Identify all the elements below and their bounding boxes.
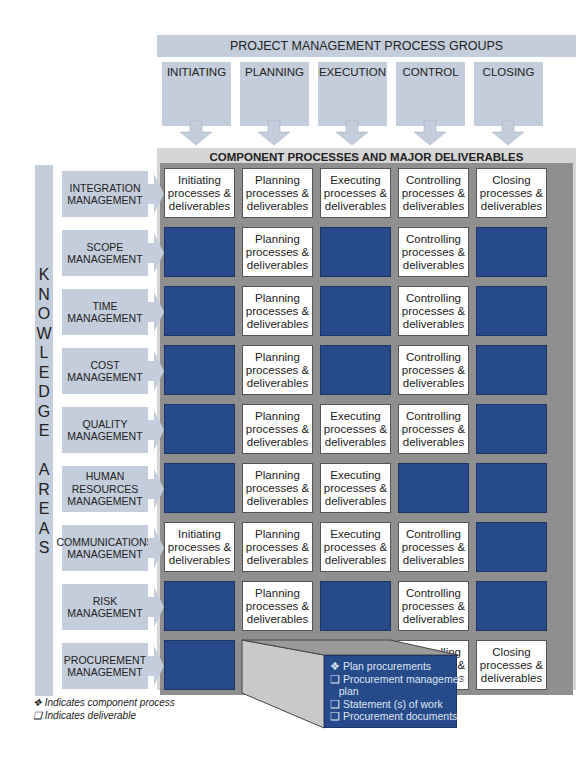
process-cell: Planningprocesses &deliverables xyxy=(242,404,313,454)
process-cell: Planningprocesses &deliverables xyxy=(242,168,313,218)
process-cell: Planningprocesses &deliverables xyxy=(242,227,313,277)
process-cell: Planningprocesses &deliverables xyxy=(242,522,313,572)
legend-component-process: ❖ Indicates component process xyxy=(33,697,175,708)
empty-cell xyxy=(476,227,547,277)
process-cell: Planningprocesses &deliverables xyxy=(242,345,313,395)
right-arrow-icon xyxy=(148,174,164,214)
legend-deliverable: ❑ Indicates deliverable xyxy=(33,710,136,721)
right-arrow-icon xyxy=(148,233,164,273)
empty-cell xyxy=(476,286,547,336)
empty-cell xyxy=(164,227,235,277)
process-cell: Planningprocesses &deliverables xyxy=(242,286,313,336)
right-arrow-icon xyxy=(148,351,164,391)
process-cell: Executingprocesses &deliverables xyxy=(320,463,391,513)
callout-item: ❑ Procurement documents xyxy=(330,710,452,723)
knowledge-area-risk: RISKMANAGEMENT xyxy=(62,584,148,630)
empty-cell xyxy=(164,404,235,454)
empty-cell xyxy=(476,345,547,395)
process-cell: Closingprocesses &deliverables xyxy=(476,168,547,218)
process-cell: Planningprocesses &deliverables xyxy=(242,581,313,631)
knowledge-area-scope: SCOPEMANAGEMENT xyxy=(62,230,148,276)
right-arrow-icon xyxy=(148,410,164,450)
process-cell: Executingprocesses &deliverables xyxy=(320,522,391,572)
empty-cell xyxy=(320,581,391,631)
empty-cell xyxy=(476,463,547,513)
process-cell: Controllingprocesses &deliverables xyxy=(398,522,469,572)
process-cell: Initiatingprocesses &deliverables xyxy=(164,522,235,572)
down-arrow-icon xyxy=(257,120,291,146)
knowledge-area-communications: COMMUNICATIONSMANAGEMENT xyxy=(62,525,148,571)
empty-cell xyxy=(476,522,547,572)
empty-cell xyxy=(164,581,235,631)
empty-cell xyxy=(476,404,547,454)
callout-item: ❑ Procurement management xyxy=(330,673,452,686)
knowledge-area-time: TIMEMANAGEMENT xyxy=(62,289,148,335)
empty-cell xyxy=(398,463,469,513)
process-group-control: CONTROL xyxy=(396,62,465,126)
process-cell: Closingprocesses &deliverables xyxy=(476,640,547,690)
process-group-closing: CLOSING xyxy=(474,62,543,126)
empty-cell xyxy=(164,286,235,336)
process-cell: Controllingprocesses &deliverables xyxy=(398,286,469,336)
process-cell: Controllingprocesses &deliverables xyxy=(398,581,469,631)
right-arrow-icon xyxy=(148,646,164,686)
callout-item: ❖ Plan procurements xyxy=(330,660,452,673)
right-arrow-icon xyxy=(148,469,164,509)
process-cell: Initiatingprocesses &deliverables xyxy=(164,168,235,218)
process-cell: Controllingprocesses &deliverables xyxy=(398,404,469,454)
empty-cell xyxy=(320,286,391,336)
right-arrow-icon xyxy=(148,587,164,627)
down-arrow-icon xyxy=(179,120,213,146)
down-arrow-icon xyxy=(491,120,525,146)
process-cell: Executingprocesses &deliverables xyxy=(320,404,391,454)
callout-item: ❑ Statement (s) of work xyxy=(330,698,452,711)
empty-cell xyxy=(320,345,391,395)
down-arrow-icon xyxy=(335,120,369,146)
knowledge-area-integration: INTEGRATIONMANAGEMENT xyxy=(62,171,148,217)
knowledge-area-cost: COSTMANAGEMENT xyxy=(62,348,148,394)
process-group-initiating: INITIATING xyxy=(162,62,231,126)
process-cell: Controllingprocesses &deliverables xyxy=(398,345,469,395)
empty-cell xyxy=(164,640,235,690)
process-cell: Controllingprocesses &deliverables xyxy=(398,168,469,218)
empty-cell xyxy=(476,581,547,631)
process-cell: Controllingprocesses &deliverables xyxy=(398,227,469,277)
process-group-execution: EXECUTION xyxy=(318,62,387,126)
process-cell: Executingprocesses &deliverables xyxy=(320,168,391,218)
down-arrow-icon xyxy=(413,120,447,146)
process-group-planning: PLANNING xyxy=(240,62,309,126)
procurement-planning-callout: ❖ Plan procurements❑ Procurement managem… xyxy=(324,655,457,728)
right-arrow-icon xyxy=(148,528,164,568)
knowledge-area-human: HUMANRESOURCESMANAGEMENT xyxy=(62,466,148,512)
empty-cell xyxy=(164,463,235,513)
right-arrow-icon xyxy=(148,292,164,332)
knowledge-area-quality: QUALITYMANAGEMENT xyxy=(62,407,148,453)
empty-cell xyxy=(320,227,391,277)
callout-item: plan xyxy=(330,685,452,698)
knowledge-area-procurement: PROCUREMENTMANAGEMENT xyxy=(62,643,148,689)
knowledge-areas-label: KNOWLEDGE AREAS xyxy=(35,265,53,558)
process-groups-header: PROJECT MANAGEMENT PROCESS GROUPS xyxy=(157,35,576,57)
empty-cell xyxy=(164,345,235,395)
process-cell: Planningprocesses &deliverables xyxy=(242,463,313,513)
